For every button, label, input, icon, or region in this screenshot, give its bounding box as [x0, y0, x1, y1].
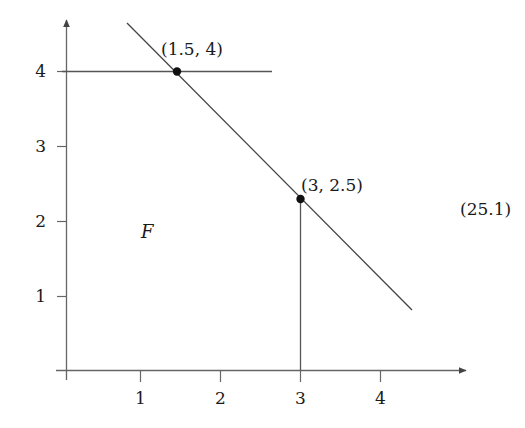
x-tick-label-1: 1: [128, 390, 153, 407]
y-tick-label-1: 1: [22, 288, 46, 305]
point-marker-b: [296, 195, 304, 203]
equation-number: (25.1): [460, 201, 511, 218]
region-label-f: F: [141, 223, 154, 241]
point-label-b: (3, 2.5): [301, 177, 363, 194]
plot-canvas: [0, 0, 525, 428]
point-marker-a: [173, 67, 181, 75]
diagonal-budget-line: [127, 23, 412, 310]
y-tick-label-2: 2: [22, 213, 46, 230]
x-tick-label-4: 4: [368, 390, 393, 407]
y-tick-label-4: 4: [22, 63, 46, 80]
point-label-a: (1.5, 4): [161, 41, 223, 58]
math-figure: 1 2 3 4 1 2 3 4 (1.5, 4) (3, 2.5) F (25.…: [0, 0, 525, 428]
x-tick-label-2: 2: [208, 390, 233, 407]
x-tick-label-3: 3: [288, 390, 313, 407]
y-tick-label-3: 3: [22, 138, 46, 155]
